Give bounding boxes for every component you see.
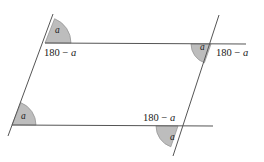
top-right-angle-a-label: a xyxy=(200,43,205,53)
bottom-left-angle-a-label: a xyxy=(21,112,26,122)
bottom-right-angle-a-label: a xyxy=(170,133,175,143)
top-parallel-line xyxy=(45,43,246,44)
supplement-dash: − xyxy=(159,112,170,123)
supplement-number: 180 xyxy=(44,47,60,58)
supplement-number: 180 xyxy=(143,112,159,123)
figure-lines xyxy=(8,14,246,156)
right-transversal xyxy=(173,15,219,156)
supplement-variable: a xyxy=(71,47,76,58)
supplement-dash: − xyxy=(232,47,243,58)
top-right-supplement-label: 180 − a xyxy=(216,48,248,59)
top-left-supplement-label: 180 − a xyxy=(44,48,76,59)
supplement-variable: a xyxy=(170,112,175,123)
supplement-variable: a xyxy=(243,47,248,58)
supplement-dash: − xyxy=(60,47,71,58)
top-left-angle-a-label: a xyxy=(55,26,60,36)
geometry-canvas xyxy=(0,0,264,162)
bottom-right-supplement-label: 180 − a xyxy=(143,113,175,124)
geometry-figure: a a a a 180 − a 180 − a 180 − a xyxy=(0,0,264,162)
supplement-number: 180 xyxy=(216,47,232,58)
angle-wedges xyxy=(12,19,211,147)
